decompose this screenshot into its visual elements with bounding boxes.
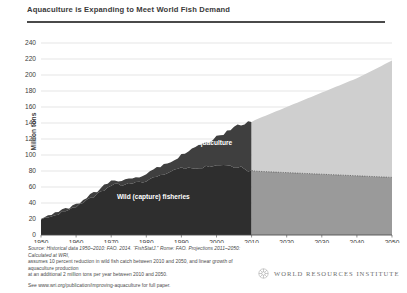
x-tick-label: 2050 [385,239,400,244]
y-tick-label: 180 [25,87,36,94]
x-tick-label: 1960 [69,239,84,244]
area-chart-svg: 0204060801001201401601802002202401950196… [0,28,407,243]
y-tick-label: 0 [32,231,36,238]
y-tick-label: 40 [29,199,37,206]
wri-wordmark: WORLD RESOURCES INSTITUTE [274,270,400,277]
plot-area: Million tons 020406080100120140160180200… [0,28,407,243]
source-line-1-text: Source: Historical data 1950–2010: FAO. … [28,246,240,258]
aquaculture-area-projection [252,61,392,178]
source-line-3: at an additional 2 million tons per year… [28,272,258,279]
page-title: Aquaculture is Expanding to Meet World F… [27,5,387,15]
source-line-4: See www.wri.org/publication/improving-aq… [28,283,258,290]
y-tick-label: 220 [25,55,36,62]
wri-rosette-icon [258,268,269,279]
series-annotation: Wild (capture) fisheries [117,193,190,201]
y-tick-label: 240 [25,39,36,46]
source-line-1: Source: Historical data 1950–2010: FAO. … [28,246,258,259]
y-axis-title: Million tons [30,97,37,167]
x-tick-label: 1950 [34,239,49,244]
x-tick-label: 2030 [314,239,329,244]
chart-figure: Aquaculture is Expanding to Meet World F… [0,0,407,293]
x-tick-label: 1990 [174,239,189,244]
series-annotation: Aquaculture [194,139,233,147]
y-tick-label: 60 [29,183,37,190]
title-block: Aquaculture is Expanding to Meet World F… [27,5,387,15]
x-tick-label: 2000 [209,239,224,244]
y-tick-label: 20 [29,215,37,222]
x-tick-label: 2040 [350,239,365,244]
y-tick-label: 200 [25,71,36,78]
wri-logo: WORLD RESOURCES INSTITUTE [258,268,400,279]
x-tick-label: 1980 [139,239,154,244]
x-tick-label: 2020 [279,239,294,244]
source-notes: Source: Historical data 1950–2010: FAO. … [28,246,258,290]
wild-capture-area-projection [252,170,392,235]
x-tick-label: 2010 [244,239,259,244]
title-divider [27,21,385,23]
x-tick-label: 1970 [104,239,119,244]
source-line-2: assumes 10 percent reduction in wild fis… [28,259,258,272]
y-tick-label: 80 [29,167,37,174]
